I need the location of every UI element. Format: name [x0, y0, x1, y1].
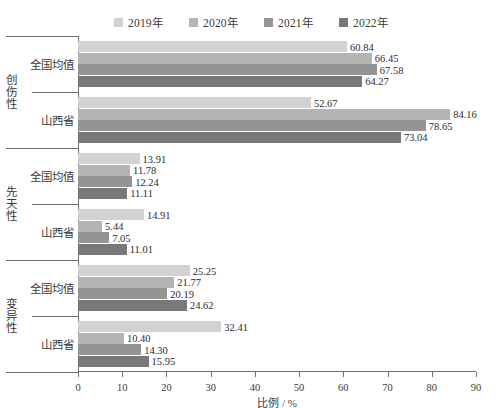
bar-row: 13.91	[78, 153, 476, 164]
x-tick-label: 60	[338, 382, 349, 393]
bar-row: 21.77	[78, 277, 476, 288]
bar[interactable]	[78, 176, 132, 187]
bar[interactable]	[78, 153, 140, 164]
bar[interactable]	[78, 356, 149, 367]
bar[interactable]	[78, 300, 187, 311]
x-tick	[255, 372, 256, 377]
bar[interactable]	[78, 244, 127, 255]
x-tick-label: 20	[161, 382, 172, 393]
category-label: 全国均值	[30, 168, 74, 184]
x-tick	[388, 372, 389, 377]
bar-value-label: 11.78	[130, 165, 156, 176]
category-separator	[32, 204, 78, 205]
bar-row: 14.91	[78, 209, 476, 220]
bar[interactable]	[78, 265, 190, 276]
bar-value-label: 15.95	[149, 356, 176, 367]
bar[interactable]	[78, 188, 127, 199]
group-label: 先天性	[3, 186, 19, 222]
bar[interactable]	[78, 221, 102, 232]
bar-value-label: 73.04	[401, 132, 428, 143]
bar-value-label: 64.27	[362, 76, 389, 87]
bar[interactable]	[78, 97, 311, 108]
legend-item-2019年[interactable]: 2019年	[114, 14, 163, 30]
bar-value-label: 11.11	[127, 188, 153, 199]
bar-row: 14.30	[78, 344, 476, 355]
x-tick-label: 10	[117, 382, 128, 393]
legend-label: 2020年	[203, 14, 238, 30]
plot-area: 0102030405060708090 60.8466.4567.5864.27…	[78, 36, 476, 372]
category-label: 山西省	[41, 336, 74, 352]
bar-value-label: 60.84	[347, 41, 374, 52]
bar-row: 24.62	[78, 300, 476, 311]
bar[interactable]	[78, 41, 347, 52]
bar-row: 73.04	[78, 132, 476, 143]
x-tick	[476, 372, 477, 377]
bar-value-label: 20.19	[167, 288, 194, 299]
x-tick	[78, 372, 79, 377]
legend-item-2021年[interactable]: 2021年	[264, 14, 313, 30]
legend-item-2020年[interactable]: 2020年	[189, 14, 238, 30]
bar[interactable]	[78, 321, 221, 332]
x-tick-label: 70	[382, 382, 393, 393]
legend-label: 2019年	[128, 14, 163, 30]
x-axis-label: 比例 / %	[78, 394, 476, 408]
bar-value-label: 14.91	[144, 209, 171, 220]
group-label: 变异性	[3, 298, 19, 334]
bar-value-label: 78.65	[426, 120, 453, 131]
bar[interactable]	[78, 277, 174, 288]
category-label: 山西省	[41, 112, 74, 128]
bar-row: 20.19	[78, 288, 476, 299]
bar-row: 32.41	[78, 321, 476, 332]
bar[interactable]	[78, 64, 377, 75]
bar-value-label: 12.24	[132, 176, 159, 187]
bar[interactable]	[78, 53, 372, 64]
bar-chart: 2019年2020年2021年2022年 全国均值山西省创伤性全国均值山西省先天…	[0, 0, 502, 408]
legend-swatch-icon	[264, 18, 273, 27]
category-label: 全国均值	[30, 56, 74, 72]
bar-row: 66.45	[78, 53, 476, 64]
bar[interactable]	[78, 120, 426, 131]
legend-swatch-icon	[339, 18, 348, 27]
group-separator	[6, 148, 78, 149]
bar-value-label: 13.91	[140, 153, 167, 164]
bar-row: 25.25	[78, 265, 476, 276]
bar[interactable]	[78, 209, 144, 220]
bar-value-label: 32.41	[221, 321, 248, 332]
category-axis: 全国均值山西省创伤性全国均值山西省先天性全国均值山西省变异性	[0, 36, 78, 372]
bar[interactable]	[78, 165, 130, 176]
x-tick-label: 90	[471, 382, 482, 393]
x-tick	[166, 372, 167, 377]
category-separator	[32, 92, 78, 93]
bar[interactable]	[78, 109, 450, 120]
bar-row: 52.67	[78, 97, 476, 108]
legend-item-2022年[interactable]: 2022年	[339, 14, 388, 30]
bar-row: 67.58	[78, 64, 476, 75]
bar[interactable]	[78, 76, 362, 87]
x-tick	[122, 372, 123, 377]
x-tick-label: 40	[250, 382, 261, 393]
bar-row: 11.78	[78, 165, 476, 176]
x-tick	[299, 372, 300, 377]
bar[interactable]	[78, 132, 401, 143]
category-label: 全国均值	[30, 280, 74, 296]
x-axis-line	[78, 371, 476, 372]
bar-value-label: 5.44	[102, 221, 123, 232]
bar-row: 64.27	[78, 76, 476, 87]
bar[interactable]	[78, 288, 167, 299]
legend-label: 2021年	[278, 14, 313, 30]
bar-row: 78.65	[78, 120, 476, 131]
bar-value-label: 14.30	[141, 344, 168, 355]
legend-swatch-icon	[189, 18, 198, 27]
bar-row: 11.01	[78, 244, 476, 255]
bar-row: 7.05	[78, 232, 476, 243]
x-tick	[343, 372, 344, 377]
bar[interactable]	[78, 344, 141, 355]
bar[interactable]	[78, 232, 109, 243]
bar-row: 84.16	[78, 109, 476, 120]
group-label: 创伤性	[3, 74, 19, 110]
x-tick-label: 30	[205, 382, 216, 393]
bar[interactable]	[78, 333, 124, 344]
group-separator	[6, 372, 78, 373]
chart-legend: 2019年2020年2021年2022年	[0, 14, 502, 30]
group-separator	[6, 36, 78, 37]
